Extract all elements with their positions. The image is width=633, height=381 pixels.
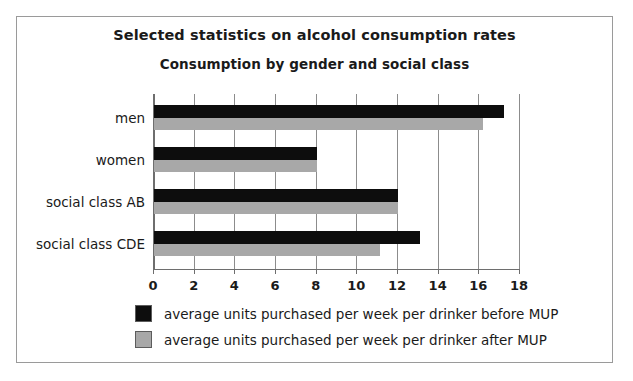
legend-item: average units purchased per week per dri… — [135, 305, 558, 322]
x-tick-mark — [438, 269, 439, 274]
legend-swatch-before-icon — [135, 305, 152, 322]
category-label: social class CDE — [36, 236, 145, 252]
x-tick-label: 0 — [148, 278, 157, 293]
bar-after-mup — [154, 118, 483, 131]
x-tick-label: 14 — [429, 278, 447, 293]
category-label: women — [96, 152, 145, 168]
chart-title: Selected statistics on alcohol consumpti… — [17, 27, 612, 43]
chart-titles: Selected statistics on alcohol consumpti… — [17, 17, 612, 72]
x-tick-mark — [356, 269, 357, 274]
x-tick-label: 2 — [189, 278, 198, 293]
legend-label: average units purchased per week per dri… — [164, 306, 558, 322]
x-axis-line — [153, 269, 519, 271]
bar-after-mup — [154, 244, 380, 257]
x-tick-mark — [234, 269, 235, 274]
x-tick-label: 16 — [469, 278, 487, 293]
plot-area: 024681012141618 menwomensocial class ABs… — [153, 94, 519, 270]
bar-before-mup — [154, 105, 504, 118]
legend-label: average units purchased per week per dri… — [164, 332, 547, 348]
x-tick-mark — [194, 269, 195, 274]
bar-before-mup — [154, 231, 420, 244]
x-tick-mark — [316, 269, 317, 274]
x-tick-label: 18 — [510, 278, 528, 293]
chart-legend: average units purchased per week per dri… — [135, 305, 558, 357]
x-tick-label: 8 — [311, 278, 320, 293]
chart-subtitle: Consumption by gender and social class — [17, 56, 612, 72]
x-tick-label: 12 — [388, 278, 406, 293]
category-label: social class AB — [46, 194, 145, 210]
bar-after-mup — [154, 160, 317, 173]
bar-after-mup — [154, 202, 398, 215]
x-tick-mark — [519, 269, 520, 274]
gridline — [519, 94, 520, 270]
legend-item: average units purchased per week per dri… — [135, 331, 558, 348]
x-tick-label: 10 — [347, 278, 365, 293]
x-tick-mark — [397, 269, 398, 274]
chart-figure: Selected statistics on alcohol consumpti… — [16, 16, 613, 363]
legend-swatch-after-icon — [135, 331, 152, 348]
bar-before-mup — [154, 189, 398, 202]
category-label: men — [115, 110, 145, 126]
x-tick-mark — [478, 269, 479, 274]
x-tick-label: 4 — [230, 278, 239, 293]
x-tick-label: 6 — [270, 278, 279, 293]
x-tick-mark — [153, 269, 154, 274]
x-tick-mark — [275, 269, 276, 274]
bar-before-mup — [154, 147, 317, 160]
